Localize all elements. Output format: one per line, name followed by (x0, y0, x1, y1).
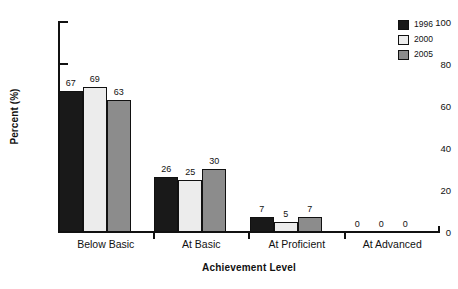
legend-item[interactable]: 2000 (398, 34, 433, 45)
legend-swatch-1996 (398, 20, 409, 30)
bar-slot: 30 (202, 22, 226, 232)
bar-slot: 5 (274, 22, 298, 232)
bar-slot: 25 (178, 22, 202, 232)
bar-group: 262530 (154, 22, 250, 232)
bar-group: 757 (249, 22, 345, 232)
bar-group: 676963 (58, 22, 154, 232)
x-axis-category-label: At Proficient (249, 238, 345, 250)
bar[interactable] (59, 91, 83, 232)
bar-value-label: 63 (102, 88, 136, 97)
x-axis-title: Achievement Level (58, 262, 440, 273)
bar-group-inner: 757 (250, 22, 322, 232)
bar-chart: Percent (%) 100806040200 676963Below Bas… (0, 0, 458, 289)
bar-slot: 7 (298, 22, 322, 232)
y-axis-title: Percent (%) (2, 0, 26, 232)
legend-label-1996: 1996 (414, 20, 433, 29)
bar-group-inner: 676963 (59, 22, 131, 232)
bar[interactable] (178, 180, 202, 233)
bar-slot: 7 (250, 22, 274, 232)
bar[interactable] (202, 169, 226, 232)
bar-value-label: 7 (293, 205, 327, 214)
bar[interactable] (83, 87, 107, 232)
bar[interactable] (107, 100, 131, 232)
legend-swatch-2005 (398, 50, 409, 60)
legend-label-2005: 2005 (414, 50, 433, 59)
bar-slot: 0 (369, 22, 393, 232)
bar[interactable] (274, 222, 298, 233)
x-axis-category-label: At Advanced (345, 238, 441, 250)
y-axis-title-label: Percent (%) (9, 88, 20, 144)
legend: 1996 2000 2005 (398, 19, 433, 60)
legend-item[interactable]: 2005 (398, 49, 433, 60)
bar-slot: 69 (83, 22, 107, 232)
legend-item[interactable]: 1996 (398, 19, 433, 30)
legend-swatch-2000 (398, 35, 409, 45)
bar-group-inner: 262530 (154, 22, 226, 232)
x-axis-category-label: Below Basic (58, 238, 154, 250)
x-axis-category-label: At Basic (154, 238, 250, 250)
bar-slot: 63 (107, 22, 131, 232)
legend-label-2000: 2000 (414, 35, 433, 44)
bar-value-label: 0 (388, 220, 422, 229)
bar[interactable] (154, 177, 178, 232)
bar[interactable] (298, 217, 322, 232)
bar-slot: 26 (154, 22, 178, 232)
bar-value-label: 30 (197, 157, 231, 166)
bar[interactable] (250, 217, 274, 232)
bar-slot: 0 (345, 22, 369, 232)
bar-slot: 67 (59, 22, 83, 232)
